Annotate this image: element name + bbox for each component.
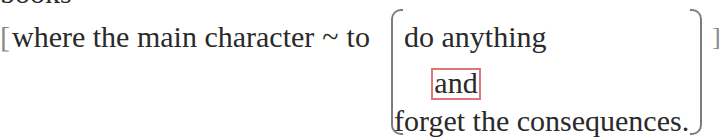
prefix-text: where the main character [12,22,314,52]
tilde-symbol: ~ [322,22,338,52]
option-line-1: do anything [404,22,547,52]
previous-line-text: books [0,0,72,8]
connector-text: and [434,68,477,98]
right-curly-bracket [690,9,702,135]
open-square-bracket: [ [0,22,10,52]
close-square-bracket: ] [712,24,721,50]
connector-highlight-box: and [431,68,481,100]
main-sentence-prefix: [ where the main character ~ to [0,22,370,52]
option-line-3: forget the consequences. [394,106,689,136]
to-text: to [347,22,370,52]
